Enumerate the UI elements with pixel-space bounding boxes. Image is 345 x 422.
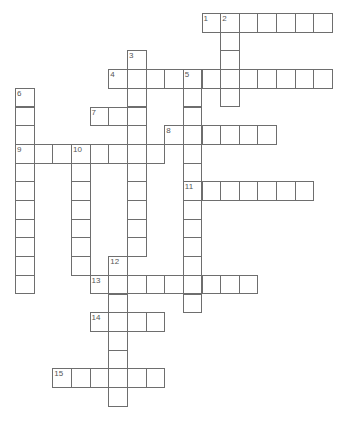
crossword-cell[interactable]: 9	[15, 144, 35, 164]
crossword-cell[interactable]	[313, 69, 333, 89]
crossword-cell[interactable]	[108, 294, 128, 314]
crossword-cell[interactable]	[90, 144, 110, 164]
crossword-cell[interactable]	[220, 32, 240, 52]
crossword-cell[interactable]	[15, 256, 35, 276]
crossword-cell[interactable]	[164, 275, 184, 295]
crossword-cell[interactable]: 12	[108, 256, 128, 276]
crossword-cell[interactable]	[220, 50, 240, 70]
crossword-cell[interactable]	[127, 88, 147, 108]
crossword-cell[interactable]	[127, 368, 147, 388]
crossword-cell[interactable]	[127, 107, 147, 127]
crossword-cell[interactable]	[146, 69, 166, 89]
crossword-cell[interactable]	[295, 69, 315, 89]
crossword-cell[interactable]	[15, 163, 35, 183]
crossword-cell[interactable]	[15, 125, 35, 145]
crossword-cell[interactable]	[239, 13, 259, 33]
crossword-cell[interactable]: 4	[108, 69, 128, 89]
crossword-cell[interactable]	[127, 312, 147, 332]
crossword-cell[interactable]	[15, 181, 35, 201]
crossword-cell[interactable]	[257, 181, 277, 201]
crossword-cell[interactable]	[276, 181, 296, 201]
crossword-cell[interactable]	[71, 200, 91, 220]
crossword-cell[interactable]	[257, 13, 277, 33]
crossword-cell[interactable]	[202, 69, 222, 89]
crossword-cell[interactable]	[108, 275, 128, 295]
crossword-cell[interactable]	[183, 294, 203, 314]
crossword-cell[interactable]	[239, 181, 259, 201]
crossword-cell[interactable]	[183, 125, 203, 145]
crossword-cell[interactable]	[127, 237, 147, 257]
crossword-cell[interactable]	[239, 275, 259, 295]
crossword-cell[interactable]	[202, 275, 222, 295]
crossword-cell[interactable]: 14	[90, 312, 110, 332]
crossword-cell[interactable]: 8	[164, 125, 184, 145]
crossword-cell[interactable]	[108, 144, 128, 164]
crossword-cell[interactable]	[108, 368, 128, 388]
crossword-cell[interactable]	[71, 256, 91, 276]
crossword-cell[interactable]	[202, 181, 222, 201]
crossword-cell[interactable]	[276, 13, 296, 33]
crossword-cell[interactable]	[108, 387, 128, 407]
crossword-cell[interactable]	[276, 69, 296, 89]
crossword-cell[interactable]	[146, 144, 166, 164]
crossword-cell[interactable]	[34, 144, 54, 164]
crossword-cell[interactable]	[15, 107, 35, 127]
crossword-cell[interactable]	[15, 237, 35, 257]
crossword-cell[interactable]	[52, 144, 72, 164]
crossword-cell[interactable]	[71, 219, 91, 239]
crossword-cell[interactable]	[220, 181, 240, 201]
crossword-cell[interactable]	[15, 275, 35, 295]
crossword-cell[interactable]: 13	[90, 275, 110, 295]
crossword-cell[interactable]	[183, 219, 203, 239]
crossword-cell[interactable]	[71, 163, 91, 183]
crossword-cell[interactable]	[15, 219, 35, 239]
crossword-cell[interactable]: 2	[220, 13, 240, 33]
crossword-cell[interactable]	[127, 144, 147, 164]
crossword-cell[interactable]	[127, 200, 147, 220]
crossword-cell[interactable]	[127, 163, 147, 183]
crossword-cell[interactable]	[146, 368, 166, 388]
crossword-cell[interactable]	[183, 237, 203, 257]
crossword-cell[interactable]	[239, 69, 259, 89]
crossword-cell[interactable]	[90, 368, 110, 388]
crossword-cell[interactable]	[220, 88, 240, 108]
crossword-cell[interactable]	[202, 125, 222, 145]
crossword-cell[interactable]	[239, 125, 259, 145]
crossword-cell[interactable]	[71, 181, 91, 201]
crossword-cell[interactable]: 10	[71, 144, 91, 164]
crossword-cell[interactable]: 3	[127, 50, 147, 70]
crossword-cell[interactable]	[220, 69, 240, 89]
crossword-cell[interactable]	[108, 312, 128, 332]
crossword-cell[interactable]	[146, 312, 166, 332]
crossword-cell[interactable]	[183, 256, 203, 276]
crossword-cell[interactable]	[164, 69, 184, 89]
crossword-cell[interactable]	[295, 181, 315, 201]
crossword-cell[interactable]	[108, 350, 128, 370]
crossword-cell[interactable]: 7	[90, 107, 110, 127]
crossword-cell[interactable]	[313, 13, 333, 33]
crossword-cell[interactable]	[183, 88, 203, 108]
crossword-cell[interactable]: 5	[183, 69, 203, 89]
crossword-cell[interactable]	[127, 69, 147, 89]
crossword-cell[interactable]	[71, 237, 91, 257]
crossword-cell[interactable]: 15	[52, 368, 72, 388]
crossword-cell[interactable]	[127, 181, 147, 201]
crossword-cell[interactable]	[108, 107, 128, 127]
crossword-cell[interactable]	[127, 219, 147, 239]
crossword-cell[interactable]	[183, 107, 203, 127]
crossword-cell[interactable]	[127, 275, 147, 295]
crossword-cell[interactable]	[257, 125, 277, 145]
crossword-cell[interactable]	[146, 275, 166, 295]
crossword-cell[interactable]	[257, 69, 277, 89]
crossword-cell[interactable]	[220, 125, 240, 145]
crossword-cell[interactable]	[183, 163, 203, 183]
crossword-cell[interactable]: 6	[15, 88, 35, 108]
crossword-cell[interactable]: 11	[183, 181, 203, 201]
crossword-cell[interactable]: 1	[202, 13, 222, 33]
crossword-cell[interactable]	[15, 200, 35, 220]
crossword-cell[interactable]	[183, 200, 203, 220]
crossword-cell[interactable]	[183, 275, 203, 295]
crossword-cell[interactable]	[108, 331, 128, 351]
crossword-cell[interactable]	[220, 275, 240, 295]
crossword-cell[interactable]	[71, 368, 91, 388]
